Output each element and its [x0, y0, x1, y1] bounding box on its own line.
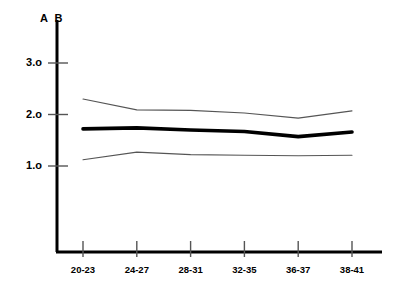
series-mean-line — [83, 128, 352, 137]
y-axis-tick-label: 1.o — [8, 159, 42, 171]
x-axis-tick-label: 36-37 — [271, 264, 325, 275]
line-chart-plot — [0, 0, 395, 292]
x-axis-ticks — [83, 241, 352, 257]
x-axis-tick-label: 20-23 — [56, 264, 110, 275]
y-axis-tick-label: 3.o — [8, 56, 42, 68]
x-axis-tick-label: 24-27 — [110, 264, 164, 275]
x-axis-tick-label: 32-35 — [217, 264, 271, 275]
y-axis-corner-label: A B — [40, 12, 65, 24]
y-axis-tick-label: 2.o — [8, 108, 42, 120]
series-upper-band — [83, 99, 352, 118]
series-lower-band — [83, 152, 352, 160]
x-axis-tick-label: 28-31 — [164, 264, 218, 275]
x-axis-tick-label: 38-41 — [325, 264, 379, 275]
chart-container: A B 3.o2.o1.o 20-2324-2728-3132-3536-373… — [0, 0, 395, 292]
